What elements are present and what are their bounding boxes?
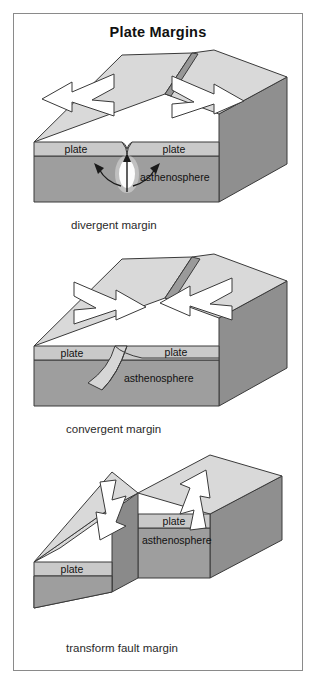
panel-convergent: plate plate asthenosphere: [14, 250, 302, 425]
panel-divergent: plate plate asthenosphere: [14, 46, 302, 221]
left-plate-label: plate: [61, 563, 84, 575]
right-plate-label: plate: [165, 346, 188, 358]
left-plate-label: plate: [61, 347, 84, 359]
left-plate-label: plate: [65, 143, 88, 155]
left-block-bottom-face: [34, 576, 112, 608]
asthenosphere-label: asthenosphere: [124, 372, 194, 384]
caption-convergent: convergent margin: [66, 423, 161, 435]
divergent-block-diagram: plate plate asthenosphere: [14, 46, 304, 221]
transform-block-diagram: plate plate asthenosphere: [14, 452, 304, 642]
asthenosphere-label: asthenosphere: [140, 171, 210, 183]
caption-transform: transform fault margin: [66, 642, 178, 654]
convergent-block-diagram: plate plate asthenosphere: [14, 250, 304, 425]
asthenosphere-label: asthenosphere: [142, 534, 212, 546]
caption-divergent: divergent margin: [71, 219, 157, 231]
right-plate-label: plate: [163, 143, 186, 155]
diagram-frame: Plate Margins: [13, 13, 303, 671]
right-plate-label: plate: [163, 515, 186, 527]
panel-transform: plate plate asthenosphere: [14, 452, 302, 642]
page-title: Plate Margins: [14, 24, 302, 40]
